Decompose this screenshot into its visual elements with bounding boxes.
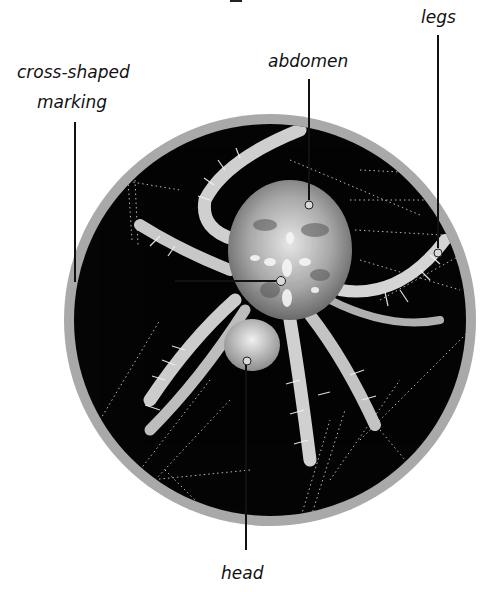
- label-cross-marking-line2: marking: [37, 91, 107, 113]
- head-shape: [224, 319, 280, 371]
- label-legs: legs: [421, 6, 456, 28]
- legs-dot: [434, 249, 442, 257]
- spider-diagram: [0, 0, 489, 592]
- cross-marking-dot: [277, 277, 286, 286]
- head-dot: [243, 357, 251, 365]
- abdomen-dot: [305, 201, 313, 209]
- label-abdomen: abdomen: [268, 50, 348, 72]
- label-cross-marking-line1: cross-shaped: [17, 61, 130, 83]
- label-head: head: [221, 562, 263, 584]
